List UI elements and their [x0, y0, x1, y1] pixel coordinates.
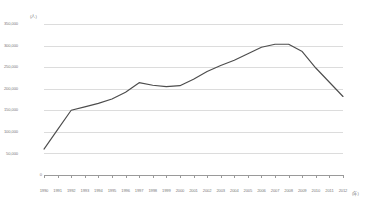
x-axis-tick-label: 2005 — [244, 189, 253, 193]
x-axis-tick-label: 2000 — [176, 189, 185, 193]
x-axis-tick — [180, 175, 181, 178]
x-axis-tick — [221, 175, 222, 178]
x-axis-tick — [139, 175, 140, 178]
line-chart: (人) 350,000 300,000 250,000 200,000 150,… — [0, 0, 367, 209]
x-axis-tick-label: 1994 — [94, 189, 103, 193]
y-axis-tick-label: 300,000 — [0, 44, 18, 49]
x-axis-tick — [98, 175, 99, 178]
x-axis-tick — [112, 175, 113, 178]
x-axis-tick-label: 2002 — [203, 189, 212, 193]
x-axis-tick — [343, 175, 344, 178]
x-axis-tick-label: 2006 — [257, 189, 266, 193]
x-axis-tick — [85, 175, 86, 178]
y-axis-tick-label: 350,000 — [0, 22, 18, 27]
x-axis-tick-label: 1999 — [162, 189, 171, 193]
x-axis-tick — [166, 175, 167, 178]
y-axis-unit-label: (人) — [30, 13, 37, 19]
x-axis-tick — [44, 175, 45, 178]
x-axis-tick-label: 2009 — [298, 189, 307, 193]
x-axis-tick-label: 2003 — [216, 189, 225, 193]
x-axis-tick — [275, 175, 276, 178]
x-axis-tick-label: 1997 — [135, 189, 144, 193]
x-axis-tick-label: 2007 — [271, 189, 280, 193]
x-axis-tick-label: 1990 — [40, 189, 49, 193]
x-axis-tick — [248, 175, 249, 178]
x-axis-tick — [207, 175, 208, 178]
x-axis-tick-label: 2011 — [325, 189, 333, 193]
x-axis-tick — [126, 175, 127, 178]
x-axis-tick — [329, 175, 330, 178]
x-axis-tick — [302, 175, 303, 178]
x-axis-tick-label: 2004 — [230, 189, 239, 193]
x-axis-tick-label: 1993 — [81, 189, 90, 193]
x-axis-tick — [194, 175, 195, 178]
x-axis-tick — [316, 175, 317, 178]
x-axis-tick-label: 2010 — [312, 189, 321, 193]
x-axis-tick-label: 2008 — [284, 189, 293, 193]
x-axis-tick-label: 1992 — [67, 189, 76, 193]
y-axis-tick-label: 100,000 — [0, 130, 18, 135]
y-axis-tick-label: 250,000 — [0, 65, 18, 70]
y-axis-tick-label: 150,000 — [0, 108, 18, 113]
x-axis-tick — [58, 175, 59, 178]
x-axis-unit-label: (年) — [352, 190, 359, 196]
x-axis-tick — [153, 175, 154, 178]
x-axis-tick-label: 2012 — [339, 189, 348, 193]
series-line — [44, 24, 343, 175]
x-axis-tick-label: 1998 — [148, 189, 157, 193]
x-axis-tick — [234, 175, 235, 178]
x-axis-tick-label: 1996 — [121, 189, 130, 193]
x-axis-tick-label: 1995 — [108, 189, 117, 193]
x-axis-tick-label: 1991 — [53, 189, 62, 193]
y-axis-tick-label: 50,000 — [0, 152, 18, 157]
y-axis-tick-label-zero: 0 — [30, 172, 42, 177]
x-axis-tick — [71, 175, 72, 178]
x-axis-tick — [289, 175, 290, 178]
y-axis-tick-label: 200,000 — [0, 87, 18, 92]
x-axis-tick — [261, 175, 262, 178]
x-axis-tick-label: 2001 — [189, 189, 198, 193]
